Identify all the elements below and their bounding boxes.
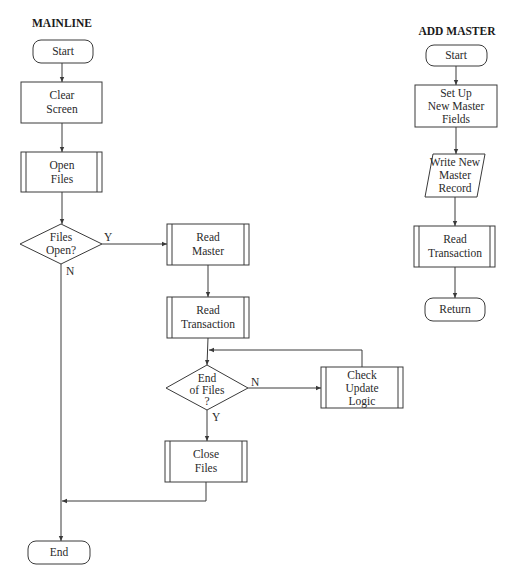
set-up-label-3: Fields <box>442 113 471 125</box>
loop-back-arrow <box>209 350 362 367</box>
read-transaction-predefined-process: Read Transaction <box>167 297 249 338</box>
set-up-label-1: Set Up <box>440 87 472 100</box>
mainline-start-terminal: Start <box>33 40 93 63</box>
open-files-label-1: Open <box>50 159 75 172</box>
mainline-end-terminal: End <box>28 541 90 564</box>
flowchart-canvas: MAINLINE Start Clear Screen Open Files F… <box>0 0 513 579</box>
connector-arrow <box>207 338 208 365</box>
end-of-files-yes-label: Y <box>212 411 221 423</box>
set-up-label-2: New Master <box>428 100 485 112</box>
add-master-start-label: Start <box>445 49 468 61</box>
files-open-no-label: N <box>66 265 75 277</box>
files-open-label-2: Open? <box>46 244 76 257</box>
mainline-title: MAINLINE <box>32 17 92 29</box>
end-of-files-label-3: ? <box>204 395 209 407</box>
check-update-logic-label-1: Check <box>347 369 377 381</box>
files-open-yes-label: Y <box>104 231 113 243</box>
write-new-master-record-io: Write New Master Record <box>425 154 485 197</box>
end-of-files-no-label: N <box>251 376 260 388</box>
files-open-decision: Files Open? <box>20 224 102 264</box>
read-master-predefined-process: Read Master <box>167 224 249 265</box>
write-record-label-3: Record <box>438 182 471 194</box>
mainline-end-label: End <box>50 546 69 558</box>
end-of-files-label-1: End <box>198 372 217 384</box>
clear-screen-process: Clear Screen <box>21 82 102 123</box>
close-files-label-2: Files <box>195 462 218 474</box>
set-up-new-master-fields-process: Set Up New Master Fields <box>415 85 497 127</box>
add-master-title: ADD MASTER <box>419 25 497 37</box>
close-files-predefined-process: Close Files <box>165 441 247 482</box>
write-record-label-2: Master <box>439 169 471 181</box>
open-files-label-2: Files <box>51 173 74 185</box>
end-of-files-decision: End of Files ? <box>166 365 248 410</box>
clear-screen-label-1: Clear <box>50 89 75 101</box>
add-master-read-transaction-label-2: Transaction <box>428 247 482 259</box>
add-master-return-label: Return <box>439 303 471 315</box>
files-open-label-1: Files <box>50 231 73 243</box>
write-record-label-1: Write New <box>430 156 481 168</box>
close-files-label-1: Close <box>193 448 219 460</box>
check-update-logic-label-2: Update <box>345 382 378 395</box>
read-master-label-2: Master <box>192 245 224 257</box>
add-master-start-terminal: Start <box>426 45 487 66</box>
check-update-logic-predefined-process: Check Update Logic <box>321 367 403 408</box>
add-master-read-transaction-label-1: Read <box>443 233 467 245</box>
add-master-read-transaction-predefined-process: Read Transaction <box>414 226 495 267</box>
read-master-label-1: Read <box>196 231 220 243</box>
read-transaction-label-1: Read <box>196 304 220 316</box>
check-update-logic-label-3: Logic <box>349 395 376 408</box>
add-master-return-terminal: Return <box>425 298 485 321</box>
mainline-start-label: Start <box>52 45 75 57</box>
read-transaction-label-2: Transaction <box>181 318 235 330</box>
clear-screen-label-2: Screen <box>46 103 78 115</box>
connector-arrow <box>62 482 206 501</box>
open-files-predefined-process: Open Files <box>21 152 102 192</box>
